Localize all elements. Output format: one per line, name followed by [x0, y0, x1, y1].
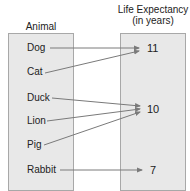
range-item-11: 11: [147, 42, 158, 54]
arrow-pig-10: [44, 112, 140, 145]
arrow-lion-10: [47, 109, 140, 121]
domain-item-dog: Dog: [27, 42, 45, 54]
arrow-duck-10: [52, 98, 140, 106]
domain-item-duck: Duck: [27, 92, 50, 104]
domain-item-cat: Cat: [27, 66, 43, 78]
domain-item-lion: Lion: [27, 115, 46, 127]
domain-item-rabbit: Rabbit: [27, 164, 56, 176]
domain-item-pig: Pig: [27, 139, 41, 151]
range-item-7: 7: [150, 164, 156, 176]
arrow-cat-11: [45, 51, 139, 73]
range-item-10: 10: [147, 103, 159, 115]
